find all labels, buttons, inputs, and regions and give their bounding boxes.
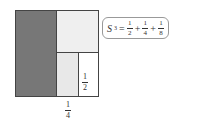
partial-sum-formula: S3 = 12 + 14 + 18 bbox=[102, 17, 169, 39]
formula-subscript: 3 bbox=[114, 25, 117, 31]
label-one-quarter: 1 4 bbox=[65, 101, 71, 120]
half-region-shaded bbox=[15, 10, 57, 97]
denominator: 2 bbox=[83, 84, 87, 92]
term-1: 12 bbox=[127, 20, 133, 37]
label-one-half: 1 2 bbox=[82, 73, 88, 92]
eighth-region bbox=[56, 52, 79, 97]
plus-sign: + bbox=[150, 23, 156, 34]
quarter-region bbox=[56, 10, 99, 53]
numerator: 1 bbox=[83, 73, 87, 81]
denominator: 4 bbox=[66, 112, 70, 120]
term-2: 14 bbox=[142, 20, 148, 37]
numerator: 1 bbox=[66, 101, 70, 109]
formula-lhs: S bbox=[107, 23, 112, 34]
term-3: 18 bbox=[158, 20, 164, 37]
plus-sign: + bbox=[135, 23, 141, 34]
equals-sign: = bbox=[119, 23, 125, 34]
